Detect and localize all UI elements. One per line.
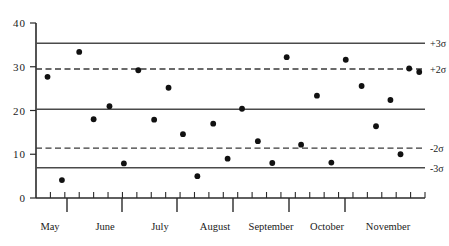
sigma-label-+3sigma: +3σ — [430, 38, 447, 49]
data-point — [359, 83, 365, 89]
data-point — [314, 93, 320, 99]
y-tick-label: 30 — [13, 61, 26, 73]
y-tick-label: 10 — [13, 148, 26, 160]
data-point — [210, 121, 216, 127]
data-point — [416, 69, 422, 75]
data-point — [45, 74, 51, 80]
data-point — [180, 131, 186, 137]
data-point — [373, 123, 379, 129]
data-point — [121, 161, 127, 167]
data-point — [398, 151, 404, 157]
x-axis-month-labels: MayJuneJulyAugustSeptemberOctoberNovembe… — [40, 221, 410, 232]
axes — [36, 23, 425, 198]
sigma-label--2sigma: -2σ — [430, 143, 444, 154]
data-point — [343, 57, 349, 63]
data-point — [91, 116, 97, 122]
data-point — [135, 67, 141, 73]
data-point — [298, 142, 304, 148]
y-axis-ticks — [30, 23, 36, 198]
x-month-label-november: November — [366, 221, 411, 232]
y-tick-label: 20 — [13, 105, 26, 117]
y-axis-tick-labels: 010203040 — [13, 17, 26, 204]
data-point — [107, 103, 113, 109]
x-month-label-june: June — [95, 221, 115, 232]
y-tick-label: 40 — [13, 17, 26, 29]
x-month-label-september: September — [249, 221, 294, 232]
data-point — [76, 49, 82, 55]
data-point — [328, 160, 334, 166]
y-tick-label: 0 — [20, 192, 27, 204]
x-axis-minor-ticks — [50, 192, 425, 198]
data-point — [194, 173, 200, 179]
data-point — [59, 177, 65, 183]
x-month-label-july: July — [151, 221, 169, 232]
data-point — [166, 85, 172, 91]
data-point — [225, 156, 231, 162]
sigma-label--3sigma: -3σ — [430, 163, 444, 174]
sigma-label-+2sigma: +2σ — [430, 64, 447, 75]
control-chart-svg: 010203040 MayJuneJulyAugustSeptemberOcto… — [0, 0, 449, 246]
data-point — [284, 54, 290, 60]
x-month-label-may: May — [40, 221, 60, 232]
data-point — [269, 160, 275, 166]
data-point — [151, 117, 157, 123]
data-point-series — [45, 49, 423, 183]
data-point — [388, 97, 394, 103]
x-month-label-august: August — [200, 221, 230, 232]
control-limit-lines — [36, 43, 425, 168]
sigma-limit-labels: +3σ+2σ-2σ-3σ — [430, 38, 447, 174]
data-point — [239, 106, 245, 112]
control-chart: 010203040 MayJuneJulyAugustSeptemberOcto… — [0, 0, 449, 246]
x-axis-month-boundary-ticks — [67, 198, 345, 212]
data-point — [406, 66, 412, 72]
x-month-label-october: October — [310, 221, 344, 232]
data-point — [255, 138, 261, 144]
